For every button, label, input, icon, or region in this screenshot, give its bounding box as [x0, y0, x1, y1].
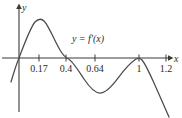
x-axis: [2, 55, 174, 61]
curve-label: y = f'(x): [71, 33, 105, 45]
x-axis-label: x: [173, 53, 179, 64]
tick-label-0: 0.17: [30, 63, 48, 74]
y-axis-label: y: [21, 2, 27, 13]
x-axis-tick-labels: 0.17 0.4 0.64 1 1.2: [30, 63, 172, 74]
tick-label-1: 0.4: [60, 63, 73, 74]
tick-label-3: 1: [137, 63, 142, 74]
figure-container: 0.17 0.4 0.64 1 1.2 x y y = f'(x): [0, 0, 182, 118]
tick-label-4: 1.2: [160, 63, 173, 74]
tick-label-2: 0.64: [86, 63, 104, 74]
x-axis-arrowhead: [168, 55, 174, 61]
y-axis-arrowhead: [16, 4, 22, 10]
derivative-graph: 0.17 0.4 0.64 1 1.2 x y y = f'(x): [0, 0, 182, 118]
